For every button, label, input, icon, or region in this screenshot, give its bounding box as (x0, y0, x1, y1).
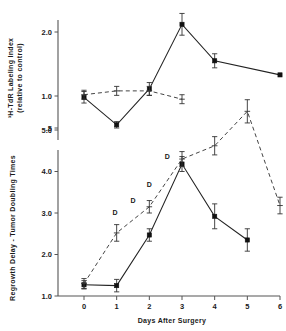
annotation-label-D: D (147, 181, 152, 188)
figure-container: .51.02.0 ³H-TdR Labeling Index (relative… (0, 0, 286, 331)
data-point-marker (147, 233, 151, 237)
bottom-panel-y-tick-label: 4.0 (42, 167, 52, 176)
data-point-marker (245, 238, 249, 242)
bottom-panel-y-tick-label: 2.0 (42, 250, 52, 259)
chart-background (0, 0, 286, 331)
bottom-panel-x-tick-label: 2 (147, 302, 151, 311)
data-point-marker (213, 214, 217, 218)
bottom-panel-x-tick-label: 6 (278, 302, 282, 311)
data-point-marker (180, 22, 184, 26)
bottom-panel-x-tick-label: 1 (115, 302, 119, 311)
top-panel-y-axis-title-line2: (relative to control) (16, 43, 24, 113)
data-point-marker (115, 284, 119, 288)
bottom-panel-x-tick-label: 0 (82, 302, 86, 311)
bottom-panel-x-tick-label: 3 (180, 302, 184, 311)
annotation-label-D: D (165, 153, 170, 160)
annotation-label-D: D (130, 197, 135, 204)
data-point-marker (278, 73, 282, 77)
bottom-panel-y-axis-title: Regrowth Delay - Tumor Doubling Times (9, 155, 17, 301)
top-panel-y-tick-label: 2.0 (42, 28, 52, 37)
bottom-panel-x-tick-label: 5 (245, 302, 249, 311)
bottom-panel-x-axis-title: Days After Surgery (138, 317, 207, 325)
bottom-panel-y-tick-label: 5.0 (42, 126, 52, 135)
data-point-marker (115, 123, 119, 127)
data-point-marker (213, 59, 217, 63)
bottom-panel-y-tick-label: 1.0 (42, 292, 52, 301)
top-panel-y-tick-label: 1.0 (42, 92, 52, 101)
bottom-panel-y-tick-label: 3.0 (42, 209, 52, 218)
top-panel-y-axis-title-line1: ³H-TdR Labeling Index (7, 38, 15, 119)
two-panel-line-chart: .51.02.0 ³H-TdR Labeling Index (relative… (0, 0, 286, 331)
annotation-label-D: D (113, 209, 118, 216)
